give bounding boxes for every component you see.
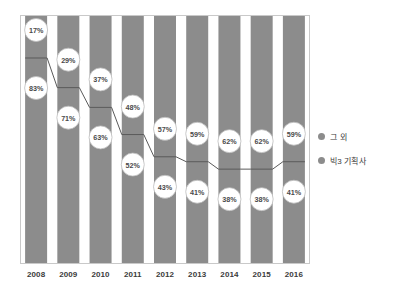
bubble-label: 57% (158, 125, 173, 134)
x-axis-label-2014: 2014 (220, 270, 238, 279)
x-axis-label-2013: 2013 (188, 270, 206, 279)
x-axis-label-2011: 2011 (124, 270, 142, 279)
value-bubble-bottom-2008: 83% (25, 76, 48, 99)
legend-label-big3: 빅3 기획사 (330, 155, 366, 166)
value-bubble-top-2008: 17% (25, 18, 48, 41)
bubble-label: 59% (190, 130, 205, 139)
bubble-label: 29% (61, 56, 76, 65)
value-bubble-top-2014: 62% (218, 130, 241, 153)
legend-item-big3[interactable]: 빅3 기획사 (318, 148, 390, 172)
x-axis-label-2010: 2010 (91, 270, 109, 279)
x-axis-label-2008: 2008 (27, 270, 45, 279)
bubble-label: 62% (222, 137, 237, 146)
legend-label-other: 그 외 (330, 131, 347, 142)
x-axis-label-2016: 2016 (285, 270, 303, 279)
value-bubble-top-2015: 62% (250, 130, 273, 153)
bubble-label: 59% (287, 130, 302, 139)
legend-dot-icon (318, 133, 325, 140)
legend-dot-icon (318, 157, 325, 164)
value-bubble-top-2013: 59% (186, 122, 209, 145)
bubble-label: 83% (29, 84, 44, 93)
bubble-label: 48% (126, 103, 141, 112)
value-bubble-top-2011: 48% (121, 95, 144, 118)
value-bubble-bottom-2010: 63% (89, 126, 112, 149)
bubble-label: 62% (254, 137, 269, 146)
value-bubble-top-2009: 29% (57, 48, 80, 71)
stacked-bar-chart: 17%83%29%71%37%63%48%52%57%43%59%41%62%3… (0, 0, 393, 298)
bubble-label: 38% (222, 195, 237, 204)
bar-2011 (122, 16, 144, 263)
bubble-label: 71% (61, 114, 76, 123)
bar-2008 (25, 16, 47, 263)
x-axis-label-2009: 2009 (59, 270, 77, 279)
legend-item-other[interactable]: 그 외 (318, 124, 390, 148)
chart-legend: 그 외 빅3 기획사 (318, 124, 390, 172)
value-bubble-bottom-2015: 38% (250, 188, 273, 211)
bubble-label: 52% (126, 161, 141, 170)
x-axis-label-2012: 2012 (156, 270, 174, 279)
bubble-label: 37% (93, 75, 108, 84)
bubble-label: 63% (93, 133, 108, 142)
value-bubble-bottom-2016: 41% (282, 180, 305, 203)
value-bubble-bottom-2014: 38% (218, 188, 241, 211)
value-bubble-bottom-2013: 41% (186, 180, 209, 203)
value-bubble-bottom-2009: 71% (57, 106, 80, 129)
bubble-label: 17% (29, 26, 44, 35)
bubble-label: 38% (254, 195, 269, 204)
value-bubble-bottom-2011: 52% (121, 153, 144, 176)
value-bubble-top-2010: 37% (89, 68, 112, 91)
value-bubble-top-2016: 59% (282, 122, 305, 145)
value-bubble-top-2012: 57% (154, 117, 177, 140)
bubble-label: 41% (190, 188, 205, 197)
bubble-label: 43% (158, 183, 173, 192)
x-axis-label-2015: 2015 (253, 270, 271, 279)
value-bubble-bottom-2012: 43% (154, 175, 177, 198)
bubble-label: 41% (287, 188, 302, 197)
